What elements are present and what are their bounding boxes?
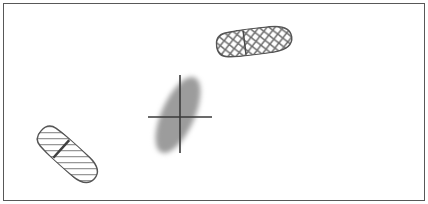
blob-ellipse <box>146 71 209 159</box>
gray-impression-blob <box>146 71 209 159</box>
impression-scene <box>0 0 428 204</box>
footwear-impression-figure <box>0 0 428 204</box>
shoeprint-crosshatch <box>214 23 295 59</box>
shoeprint-diagonal-hatch <box>31 120 104 190</box>
